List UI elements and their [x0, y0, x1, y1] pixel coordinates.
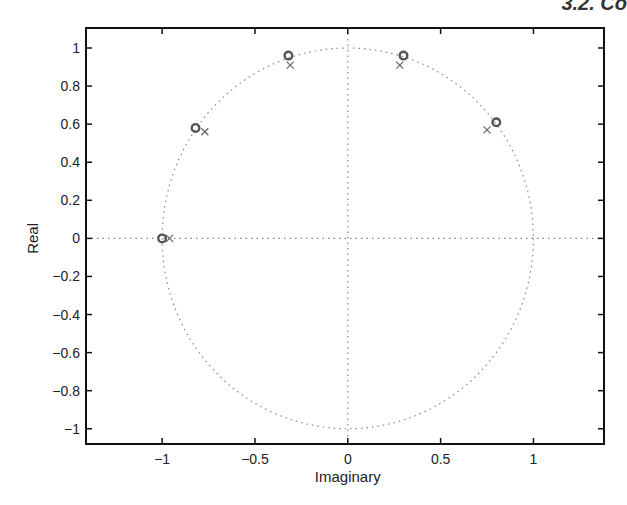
- y-tick-label: 0.4: [61, 154, 81, 170]
- y-tick-label: −1: [64, 421, 80, 437]
- zero-marker-circle: [192, 124, 200, 132]
- zero-marker-circle: [493, 118, 501, 126]
- x-axis-ticks: −1−0.500.51: [154, 28, 537, 467]
- y-tick-label: 0: [72, 230, 80, 246]
- x-tick-label: −1: [154, 451, 170, 467]
- y-axis-label: Real: [24, 223, 41, 254]
- y-tick-label: 0.2: [61, 192, 81, 208]
- x-tick-label: −0.5: [241, 451, 269, 467]
- y-tick-label: −0.6: [52, 345, 80, 361]
- x-tick-label: 0: [344, 451, 352, 467]
- pole-marker-cross: [201, 128, 208, 135]
- pole-marker-cross: [484, 126, 491, 133]
- zero-marker-circle: [158, 235, 166, 243]
- y-tick-label: −0.4: [52, 307, 80, 323]
- y-tick-label: −0.8: [52, 383, 80, 399]
- x-axis-label: Imaginary: [315, 468, 381, 485]
- pole-marker-cross: [396, 62, 403, 69]
- y-tick-label: −0.2: [52, 268, 80, 284]
- data-points: [158, 52, 500, 242]
- pole-marker-cross: [287, 62, 294, 69]
- x-tick-label: 1: [530, 451, 538, 467]
- pole-zero-chart: −1−0.500.51 10.80.60.40.20−0.2−0.4−0.6−0…: [0, 0, 627, 505]
- x-tick-label: 0.5: [431, 451, 451, 467]
- y-tick-label: 1: [72, 40, 80, 56]
- zero-marker-circle: [400, 52, 408, 60]
- y-tick-label: 0.6: [61, 116, 81, 132]
- zero-marker-circle: [285, 52, 293, 60]
- y-tick-label: 0.8: [61, 78, 81, 94]
